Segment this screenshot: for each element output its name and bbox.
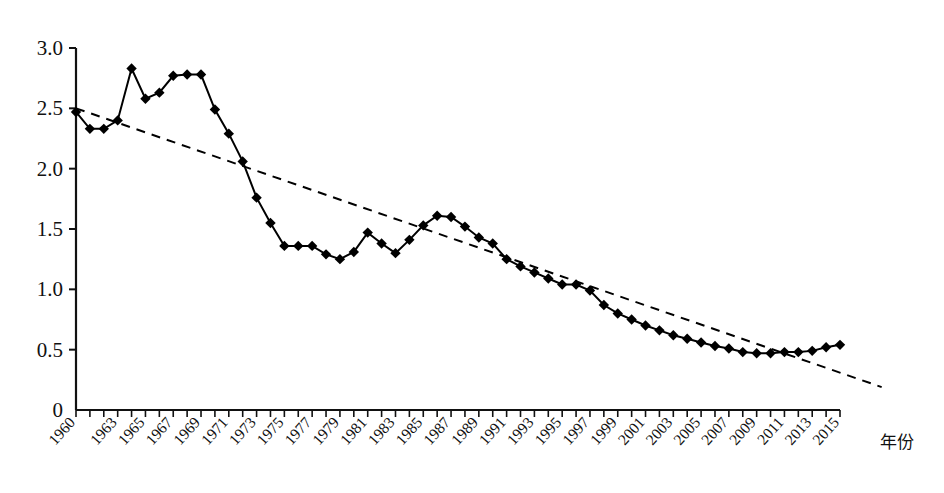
x-tick-label: 2003 (642, 413, 676, 448)
x-tick-label: 1969 (170, 413, 204, 448)
data-point-marker (640, 320, 650, 330)
x-tick-label: 1981 (337, 414, 370, 448)
data-point-marker (321, 249, 331, 259)
data-point-marker (835, 340, 845, 350)
x-axis-title: 年份 (880, 433, 914, 452)
data-point-marker (738, 347, 748, 357)
data-point-marker (626, 314, 636, 324)
x-tick-label: 1971 (198, 414, 231, 448)
data-point-marker (807, 346, 817, 356)
data-point-marker (654, 325, 664, 335)
data-line-series (71, 63, 845, 358)
data-point-marker (821, 342, 831, 352)
data-point-marker (126, 63, 136, 73)
y-tick-label: 3.0 (37, 36, 63, 60)
data-point-marker (112, 115, 122, 125)
x-tick-label: 1991 (475, 414, 508, 448)
data-point-marker (696, 337, 706, 347)
data-point-marker (335, 254, 345, 264)
x-tick-label: 2009 (726, 413, 760, 448)
data-point-marker (543, 273, 553, 283)
x-tick-label: 2007 (698, 413, 732, 448)
x-tick-label: 1979 (309, 413, 343, 448)
x-tick-label: 1967 (142, 413, 176, 448)
y-tick-label: 2.5 (37, 96, 63, 120)
data-point-marker (182, 69, 192, 79)
data-point-marker (668, 330, 678, 340)
chart-container: 00.51.01.52.02.53.0 19601963196519671969… (0, 0, 944, 493)
x-tick-label: 1995 (531, 413, 565, 448)
x-tick-label: 1963 (87, 413, 121, 448)
data-point-marker (237, 156, 247, 166)
data-point-marker (293, 241, 303, 251)
data-point-marker (251, 192, 261, 202)
data-point-marker (210, 104, 220, 114)
data-point-marker (140, 93, 150, 103)
x-tick-label: 1985 (392, 413, 426, 448)
data-point-marker (265, 218, 275, 228)
x-tick-label: 2005 (670, 413, 704, 448)
x-tick-label: 1997 (559, 413, 593, 448)
data-point-marker (529, 267, 539, 277)
x-tick-label: 2015 (809, 413, 843, 448)
data-point-marker (99, 124, 109, 134)
data-point-marker (710, 341, 720, 351)
data-point-marker (571, 279, 581, 289)
y-axis: 00.51.01.52.02.53.0 (37, 36, 76, 422)
data-point-marker (682, 334, 692, 344)
y-tick-label: 2.0 (37, 157, 63, 181)
data-point-marker (557, 279, 567, 289)
trend-line-series (76, 108, 882, 387)
y-tick-label: 1.0 (37, 277, 63, 301)
y-tick-label: 0.5 (37, 338, 63, 362)
data-point-marker (196, 69, 206, 79)
x-tick-label: 2001 (614, 414, 647, 448)
x-tick-label: 2011 (754, 414, 787, 448)
line-chart: 00.51.01.52.02.53.0 19601963196519671969… (0, 0, 944, 493)
data-point-marker (724, 343, 734, 353)
x-tick-label: 1965 (114, 413, 148, 448)
data-point-marker (515, 261, 525, 271)
data-point-marker (793, 347, 803, 357)
data-point-marker (307, 241, 317, 251)
x-tick-label: 1989 (448, 413, 482, 448)
x-tick-label: 1960 (45, 413, 79, 448)
x-tick-label: 1977 (281, 413, 315, 448)
y-tick-label: 1.5 (37, 217, 63, 241)
x-tick-label: 1987 (420, 413, 454, 448)
x-tick-label: 1999 (587, 413, 621, 448)
trend-line (76, 108, 882, 387)
x-tick-label: 1983 (364, 413, 398, 448)
x-tick-label: 1993 (503, 413, 537, 448)
x-tick-label: 1973 (225, 413, 259, 448)
data-point-marker (613, 308, 623, 318)
x-tick-labels: 1960196319651967196919711973197519771979… (45, 413, 843, 448)
data-point-marker (279, 241, 289, 251)
x-tick-label: 1975 (253, 413, 287, 448)
data-point-marker (751, 348, 761, 358)
x-tick-label: 2013 (781, 413, 815, 448)
data-polyline (76, 69, 840, 354)
data-point-marker (224, 128, 234, 138)
